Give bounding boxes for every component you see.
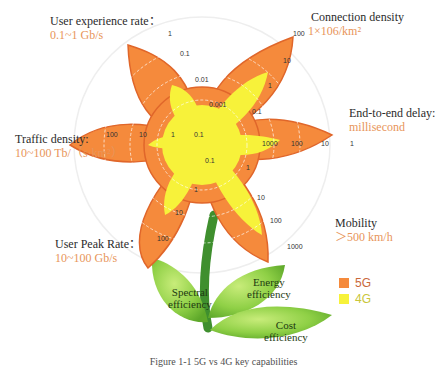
tick-mob-1: 1000 [287,243,303,250]
tick-upr-2: 10 [175,209,183,216]
tick-e2e-4: 1000 [262,140,278,147]
tick-upr-4: 0.1 [205,157,215,164]
label-user-peak-rate: User Peak Rate： 10~100 Gb/s [55,238,141,266]
leaf-label-cost-efficiency: Cost efficiency [264,320,308,343]
legend: 5G 4G [339,275,371,307]
figure-caption: Figure 1-1 5G vs 4G key capabilities [0,356,447,368]
leaf-label-spectral-efficiency: Spectral efficiency [168,287,212,310]
tick-upr-1: 100 [157,235,169,242]
tick-upr-3: 1 [194,186,198,193]
label-connection-density: Connection density 1×106/km² [311,11,404,39]
tick-td-1: 100 [106,131,118,138]
tick-uer-3: 0.01 [195,76,209,83]
tick-cd-2: 10 [283,57,291,64]
tick-cd-3: 1 [268,82,272,89]
tick-td-4: 0.1 [194,131,204,138]
flower-diagram: User experience rate： 0.1~1 Gb/s Connect… [0,0,447,368]
label-mobility: Mobility ＞500 km/h [335,217,393,245]
tick-e2e-1: 1 [350,140,354,147]
tick-cd-1: 100 [293,30,305,37]
tick-mob-3: 10 [257,194,265,201]
leaf-label-energy-efficiency: Energy efficiency [247,277,291,300]
tick-uer-4: 0.001 [209,101,227,108]
legend-swatch-5g [339,278,349,288]
tick-uer-1: 1 [168,30,172,37]
tick-cd-4: 0.1 [252,108,262,115]
legend-item-5g: 5G [339,275,371,291]
tick-e2e-3: 100 [291,140,303,147]
legend-item-4g: 4G [339,291,371,307]
legend-swatch-4g [339,294,349,304]
label-user-experience-rate: User experience rate： 0.1~1 Gb/s [50,15,161,43]
flower-graphic [0,0,447,368]
label-end-to-end-delay: End-to-end delay: millisecond [349,107,435,135]
tick-td-2: 10 [139,131,147,138]
tick-td-3: 1 [171,131,175,138]
tick-mob-2: 100 [270,217,282,224]
tick-e2e-2: 10 [321,140,329,147]
tick-uer-2: 0.1 [180,50,190,57]
tick-mob-4: 1 [246,164,250,171]
